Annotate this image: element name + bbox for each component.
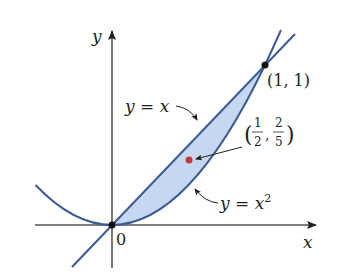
svg-text:,: , bbox=[265, 127, 269, 143]
centroid-dot bbox=[186, 157, 193, 164]
svg-text:5: 5 bbox=[275, 135, 283, 149]
centroid-diagram: y x 0 (1, 1) y = x y = x2 ( 1 2 , 2 5 ) bbox=[0, 0, 340, 279]
line-y-equals-x bbox=[72, 34, 295, 267]
centroid-label: ( 1 2 , 2 5 ) bbox=[244, 116, 295, 149]
svg-text:2: 2 bbox=[275, 116, 283, 130]
x-axis-label: x bbox=[303, 232, 313, 252]
svg-text:2: 2 bbox=[254, 135, 262, 149]
parabola-label: y = x2 bbox=[219, 192, 271, 213]
parabola-label-arrow bbox=[195, 189, 218, 203]
svg-text:1: 1 bbox=[254, 116, 262, 130]
intersection-point bbox=[262, 62, 269, 69]
svg-text:): ) bbox=[286, 122, 295, 147]
line-label-arrow bbox=[176, 106, 197, 120]
origin-point bbox=[109, 222, 116, 229]
origin-label: 0 bbox=[116, 230, 126, 249]
svg-text:(: ( bbox=[244, 122, 253, 147]
y-axis-label: y bbox=[91, 26, 102, 46]
line-label: y = x bbox=[124, 96, 170, 116]
intersection-label: (1, 1) bbox=[267, 71, 310, 90]
